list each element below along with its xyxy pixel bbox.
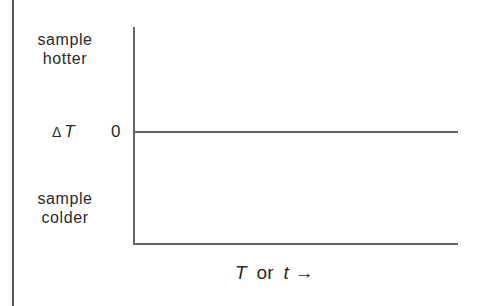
hotter-line2: hotter (30, 49, 100, 68)
colder-line2: colder (30, 208, 100, 227)
y-axis-label: ΔT (52, 122, 75, 142)
delta-variable: T (64, 122, 74, 141)
zero-tick-label: 0 (111, 122, 120, 142)
hotter-line1: sample (30, 30, 100, 49)
sample-hotter-label: sample hotter (30, 30, 100, 68)
x-or-text: or (257, 262, 274, 283)
zero-baseline (134, 131, 458, 133)
sample-colder-label: sample colder (30, 189, 100, 227)
x-axis (134, 243, 458, 245)
colder-line1: sample (30, 189, 100, 208)
arrow-right-icon: → (295, 262, 314, 283)
x-axis-label: Tort→ (235, 262, 314, 284)
x-var-temperature: T (235, 262, 247, 283)
frame-left-border (12, 0, 14, 306)
x-var-time: t (284, 262, 289, 283)
y-axis (133, 27, 135, 245)
delta-icon: Δ (52, 124, 61, 140)
